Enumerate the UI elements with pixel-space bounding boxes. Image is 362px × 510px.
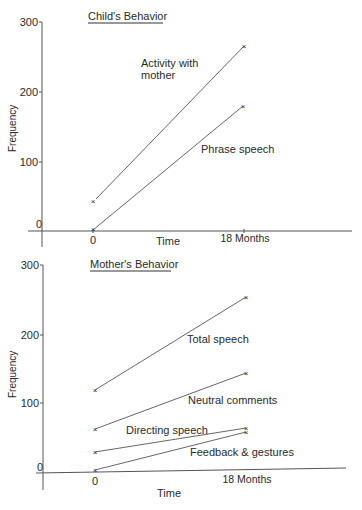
mother-behavior-chart: Mother's Behavior 300 200 100 0 Frequenc… [7,258,346,499]
y-tick-label: 200 [20,86,38,98]
series-label-neutral: Neutral comments [188,394,278,406]
data-marker: × [244,428,249,437]
series-label-directing: Directing speech [126,424,208,436]
series-label-activity: mother [141,69,176,81]
data-marker: × [91,225,96,234]
y-tick-label: 0 [37,461,43,473]
y-tick-label: 300 [20,16,38,28]
series-label-activity: Activity with [141,57,198,69]
data-marker: × [93,386,98,395]
y-tick-label: 0 [36,218,42,230]
x-tick-label: 18 Months [222,473,271,485]
series-label-phrase: Phrase speech [201,143,274,155]
y-axis-label: Frequency [7,351,18,398]
data-marker: × [93,425,98,434]
x-axis-label: Time [157,487,181,499]
data-marker: × [93,448,98,457]
y-tick-label: 100 [20,156,38,168]
data-marker: × [244,369,249,378]
data-marker: × [91,197,96,206]
x-tick-label: 0 [92,475,98,487]
data-marker: × [242,42,247,51]
y-axis-label: Frequency [7,105,18,152]
data-marker: × [93,466,98,475]
chart-title: Mother's Behavior [90,258,179,270]
x-tick-label: 0 [90,234,96,246]
data-marker: × [241,102,246,111]
series-label-feedback: Feedback & gestures [190,446,294,458]
y-tick-label: 200 [21,329,39,341]
chart-canvas: Child's Behavior 300 200 100 0 Frequency… [0,0,362,510]
x-axis [36,468,346,473]
chart-title: Child's Behavior [88,10,167,22]
x-axis-label: Time [156,235,180,247]
y-tick-label: 100 [21,397,39,409]
child-behavior-chart: Child's Behavior 300 200 100 0 Frequency… [7,10,352,247]
y-tick-label: 300 [21,259,39,271]
x-tick-label: 18 Months [220,232,269,244]
data-marker: × [244,293,249,302]
series-label-total: Total speech [187,333,249,345]
